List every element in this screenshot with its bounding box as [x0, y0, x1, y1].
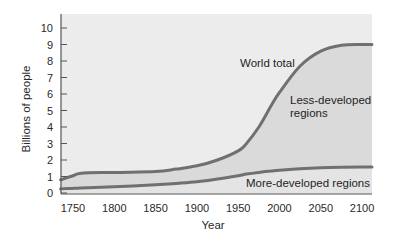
annotation-world-total: World total: [240, 57, 295, 69]
x-tick-label: 2050: [309, 202, 333, 214]
population-chart: 012345678910 175018001850190019502000205…: [0, 0, 393, 245]
x-tick-label: 1850: [143, 202, 167, 214]
annotation-less-developed-line1: Less-developed: [290, 94, 371, 106]
x-tick-label: 2100: [350, 202, 374, 214]
y-tick-label: 0: [47, 187, 53, 199]
x-tick-label: 1950: [226, 202, 250, 214]
annotation-less-developed-line2: regions: [290, 107, 328, 119]
y-tick-label: 9: [47, 39, 53, 51]
y-tick-label: 5: [47, 105, 53, 117]
y-tick-label: 1: [47, 171, 53, 183]
y-tick-label: 3: [47, 138, 53, 150]
x-tick-label: 1750: [61, 202, 85, 214]
y-tick-label: 2: [47, 154, 53, 166]
x-ticks: 17501800185019001950200020502100: [61, 202, 375, 214]
y-tick-label: 7: [47, 72, 53, 84]
x-tick-label: 2000: [267, 202, 291, 214]
x-axis-title: Year: [201, 219, 224, 231]
y-axis-title: Billions of people: [20, 66, 32, 153]
x-tick-label: 1800: [102, 202, 126, 214]
y-tick-label: 8: [47, 55, 53, 67]
annotation-more-developed: More-developed regions: [246, 177, 370, 189]
y-tick-label: 6: [47, 88, 53, 100]
x-tick-label: 1900: [185, 202, 209, 214]
y-tick-label: 10: [41, 22, 53, 34]
y-tick-label: 4: [47, 121, 53, 133]
